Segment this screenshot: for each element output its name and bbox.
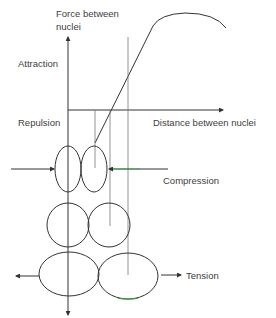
y-axis-label-line1: Force between [56,8,119,19]
tension-label: Tension [186,270,219,281]
y-axis-label-line2: nuclei [56,21,81,32]
diagram-svg [0,0,276,318]
nucleus-compressed-right [81,146,107,192]
attraction-label: Attraction [18,58,58,69]
nucleus-equilibrium-right [88,203,130,247]
repulsion-label: Repulsion [18,117,60,128]
force-distance-diagram: Force between nuclei Attraction Repulsio… [0,0,276,318]
nucleus-tension-left [39,252,99,296]
x-axis-label: Distance between nuclei [153,117,256,128]
compression-label: Compression [163,175,219,186]
